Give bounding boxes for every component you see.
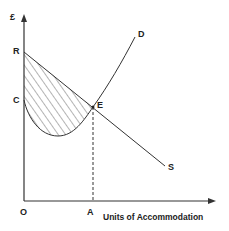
label-origin: O (20, 208, 27, 217)
x-axis-label: Units of Accommodation (103, 213, 203, 222)
label-r: R (13, 47, 20, 56)
x-axis-arrow-icon (208, 198, 216, 204)
label-a: A (87, 208, 94, 217)
diagram-canvas (0, 0, 229, 231)
y-axis-label: £ (10, 13, 15, 22)
label-c: C (13, 96, 20, 105)
y-axis-arrow-icon (21, 14, 27, 22)
point-e-marker (92, 106, 95, 109)
label-s: S (168, 163, 174, 172)
label-e: E (97, 101, 103, 110)
label-d: D (138, 30, 145, 39)
